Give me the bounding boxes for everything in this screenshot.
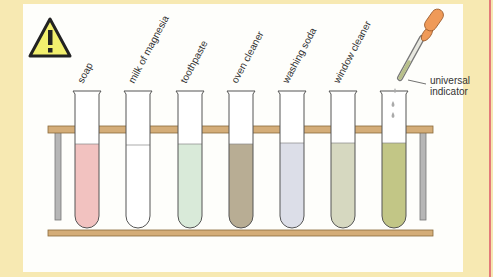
tube-label: washing soda [280, 25, 319, 85]
tube-liquid [178, 144, 202, 228]
indicator-label-2: indicator [430, 86, 468, 97]
test-tube [380, 91, 408, 228]
rack-bottom-bar [48, 230, 433, 236]
rack-post-left [55, 132, 61, 220]
indicator-label-1: universal [430, 75, 470, 86]
tube-label: milk of magnesia [126, 13, 171, 85]
tube-liquid [280, 143, 304, 228]
tube-liquid [75, 144, 99, 228]
tube-liquid [126, 145, 150, 228]
rack-post-right [420, 132, 426, 220]
tube-liquid [382, 143, 406, 228]
tube-label: oven cleaner [229, 29, 266, 85]
tube-label: window cleaner [331, 18, 374, 85]
tube-liquid [229, 144, 253, 228]
test-tube: soap [73, 60, 101, 228]
test-tube: milk of magnesia [124, 13, 171, 228]
warning-triangle-icon [30, 19, 70, 56]
tube-label: toothpaste [178, 38, 210, 85]
tube-liquid [331, 143, 355, 228]
pointer-line [408, 80, 426, 84]
test-tube: window cleaner [329, 18, 373, 228]
tube-label: soap [75, 60, 95, 85]
test-tube-diagram: soapmilk of magnesiatoothpasteoven clean… [0, 0, 493, 277]
